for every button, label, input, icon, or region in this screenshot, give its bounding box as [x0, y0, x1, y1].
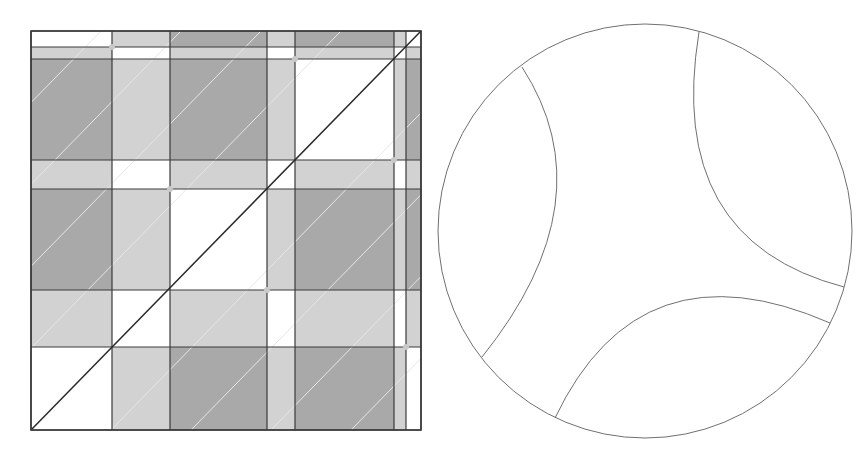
circle-arcs	[482, 32, 844, 418]
grid-cell	[394, 31, 406, 47]
grid-cell	[406, 347, 421, 430]
grid-cell	[295, 347, 394, 430]
grid-cell	[112, 347, 170, 430]
intersection-dot	[167, 186, 173, 192]
grid-cell	[170, 160, 267, 189]
square-grid-diagram	[0, 31, 741, 430]
intersection-dot	[292, 56, 298, 62]
grid-cell	[295, 189, 394, 290]
grid-cell	[406, 160, 421, 189]
grid-cell	[267, 189, 295, 290]
grid-cell	[406, 290, 421, 347]
grid-cell	[406, 47, 421, 59]
intersection-dot	[403, 344, 409, 350]
grid-cell	[112, 59, 170, 160]
grid-cell	[112, 31, 170, 47]
grid-cell	[295, 290, 394, 347]
grid-cell	[394, 347, 406, 430]
grid-cell	[31, 160, 112, 189]
top-right-arc	[694, 32, 844, 287]
grid-cell	[267, 47, 295, 59]
grid-cell	[267, 347, 295, 430]
grid-cell	[31, 59, 112, 160]
grid-cell	[406, 59, 421, 160]
grid-cell	[295, 160, 394, 189]
grid-cell	[31, 47, 112, 59]
diagram-canvas	[0, 0, 867, 454]
circle-diagram	[438, 24, 852, 438]
grid-cell	[394, 59, 406, 160]
grid-cell	[267, 59, 295, 160]
grid-cell	[394, 160, 406, 189]
grid-cell	[406, 189, 421, 290]
grid-cell	[112, 189, 170, 290]
grid-cell	[112, 47, 170, 59]
intersection-dot	[264, 287, 270, 293]
grid-cell	[295, 31, 394, 47]
grid-cell	[31, 189, 112, 290]
grid-cell	[170, 47, 267, 59]
grid-cell	[31, 31, 112, 47]
grid-cell	[394, 189, 406, 290]
grid-cell	[31, 290, 112, 347]
left-arc	[482, 67, 557, 357]
grid-cell	[170, 347, 267, 430]
bottom-arc	[555, 297, 830, 418]
grid-cell	[170, 290, 267, 347]
grid-cell	[170, 31, 267, 47]
intersection-dot	[391, 157, 397, 163]
outer-circle	[438, 24, 852, 438]
intersection-dot	[109, 44, 115, 50]
grid-cell	[295, 47, 394, 59]
grid-cell	[267, 31, 295, 47]
